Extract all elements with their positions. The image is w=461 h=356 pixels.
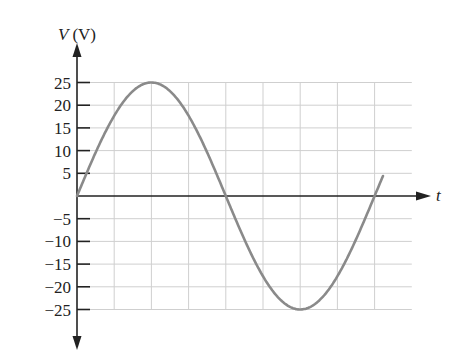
y-tick-labels: 252015105−5−10−15−20−25	[44, 74, 71, 320]
y-tick-label: −25	[44, 301, 71, 320]
y-tick-label: 5	[63, 164, 72, 183]
y-tick-label: 15	[54, 119, 71, 138]
x-axis-arrow-icon	[416, 192, 431, 201]
x-axis-label: t	[436, 186, 442, 205]
y-tick-label: −10	[44, 232, 71, 251]
y-tick-label: −5	[53, 210, 71, 229]
y-tick-label: −15	[44, 255, 71, 274]
y-tick-label: 20	[54, 96, 71, 115]
voltage-sine-chart: 252015105−5−10−15−20−25 V(V) t	[0, 0, 461, 356]
y-tick-label: 25	[54, 74, 71, 93]
y-axis-label: V(V)	[58, 25, 96, 44]
y-axis-arrow-down-icon	[73, 336, 82, 350]
y-tick-label: 10	[54, 142, 71, 161]
y-tick-label: −20	[44, 278, 71, 297]
y-axis-arrow-up-icon	[73, 43, 82, 57]
